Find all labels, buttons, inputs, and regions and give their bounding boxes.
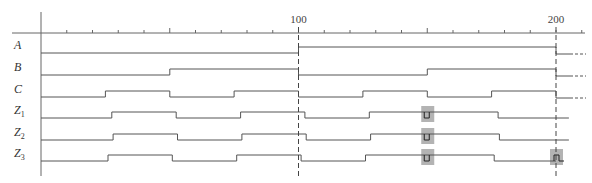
waveform-z2: [41, 134, 569, 140]
signal-label-subscript: 1: [21, 110, 25, 119]
signal-label-a: A: [13, 38, 22, 52]
glitch-highlights: [421, 106, 563, 165]
glitch-highlight-box: [421, 106, 434, 122]
tick-label: 100: [290, 13, 307, 25]
waveform-z1: [41, 112, 569, 118]
signal-label-subscript: 2: [21, 132, 25, 141]
glitch-highlight-box: [421, 128, 434, 144]
waveforms: [41, 47, 586, 161]
signal-labels: ABCZ1Z2Z3: [13, 38, 25, 162]
signal-label-z1: Z1: [14, 103, 25, 119]
signal-label-c: C: [14, 82, 23, 96]
signal-label-z3: Z3: [14, 146, 25, 162]
signal-label-b: B: [14, 60, 22, 74]
glitch-highlight-box: [421, 149, 434, 165]
timing-diagram: 100200 ABCZ1Z2Z3: [0, 0, 592, 183]
tick-label: 200: [548, 13, 565, 25]
signal-label-subscript: 3: [21, 153, 25, 162]
signal-label-z2: Z2: [14, 125, 25, 141]
